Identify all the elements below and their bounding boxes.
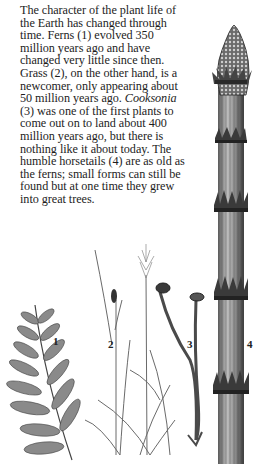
cooksonia-plant [156,283,204,445]
horsetail-plant [212,25,252,464]
plant-label-2: 2 [108,338,114,350]
fern-plant [5,305,84,460]
plant-label-3: 3 [187,338,193,350]
plant-label-4: 4 [247,338,253,350]
grass-plant [85,244,175,455]
plant-label-1: 1 [53,335,59,347]
plant-illustration [0,0,258,464]
